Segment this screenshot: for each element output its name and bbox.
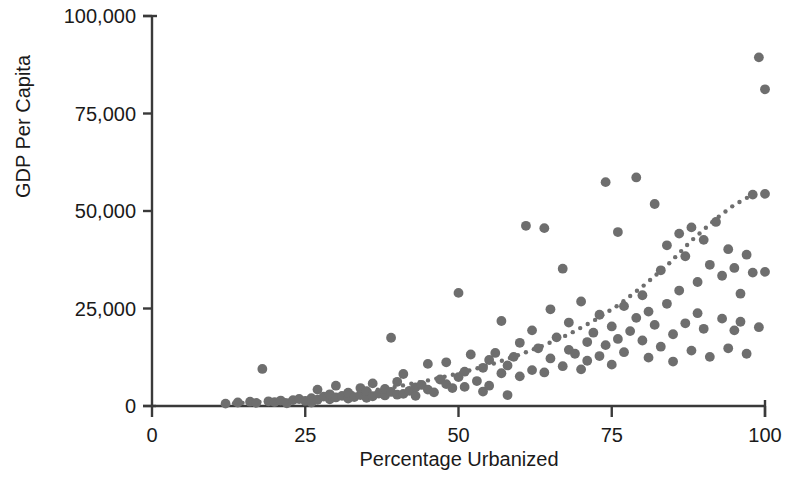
data-point [656, 342, 666, 352]
data-point [460, 367, 470, 377]
data-point [638, 290, 648, 300]
data-point [631, 313, 641, 323]
data-point [742, 250, 752, 260]
data-point [595, 310, 605, 320]
data-point [497, 368, 507, 378]
data-point [546, 304, 556, 314]
data-point [515, 338, 525, 348]
data-point [503, 390, 513, 400]
y-tick-label: 25,000 [0, 297, 136, 320]
data-point [447, 383, 457, 393]
data-point [613, 227, 623, 237]
data-point [429, 387, 439, 397]
data-point [687, 222, 697, 232]
data-point [570, 349, 580, 359]
data-point [705, 352, 715, 362]
x-tick-label: 0 [146, 424, 157, 447]
data-point [699, 324, 709, 334]
data-point [687, 346, 697, 356]
data-point [576, 364, 586, 374]
x-tick-label: 75 [601, 424, 623, 447]
data-point [595, 351, 605, 361]
data-point [582, 356, 592, 366]
data-point [717, 271, 727, 281]
data-point [668, 357, 678, 367]
data-point [454, 288, 464, 298]
data-point [644, 353, 654, 363]
data-point [521, 221, 531, 231]
data-point [233, 398, 243, 408]
data-point [742, 349, 752, 359]
data-point [674, 229, 684, 239]
scatter-chart: 025,00050,00075,000100,000 0255075100 Pe… [0, 0, 786, 484]
y-axis-title: GDP Per Capita [12, 7, 35, 247]
data-point [509, 352, 519, 362]
data-point [729, 263, 739, 273]
x-tick-label: 25 [294, 424, 316, 447]
data-point [723, 343, 733, 353]
data-point [515, 371, 525, 381]
data-point [631, 173, 641, 183]
data-point [601, 177, 611, 187]
x-tick-label: 50 [447, 424, 469, 447]
data-point [619, 347, 629, 357]
data-point [619, 301, 629, 311]
data-point [650, 320, 660, 330]
data-point [503, 361, 513, 371]
data-point [760, 84, 770, 94]
data-point [478, 363, 488, 373]
data-point [251, 398, 261, 408]
data-point [760, 267, 770, 277]
data-point [533, 343, 543, 353]
data-point [717, 314, 727, 324]
data-point [582, 337, 592, 347]
data-point [736, 289, 746, 299]
data-point [423, 359, 433, 369]
data-point [668, 329, 678, 339]
data-points [221, 52, 770, 408]
data-point [748, 268, 758, 278]
data-point [539, 368, 549, 378]
data-point [656, 265, 666, 275]
data-point [638, 336, 648, 346]
data-point [564, 318, 574, 328]
data-point [723, 244, 733, 254]
data-point [386, 333, 396, 343]
data-point [693, 308, 703, 318]
data-point [368, 378, 378, 388]
data-point [729, 325, 739, 335]
data-point [699, 235, 709, 245]
data-point [460, 382, 470, 392]
data-point [558, 361, 568, 371]
data-point [644, 307, 654, 317]
data-point [650, 199, 660, 209]
data-point [711, 217, 721, 227]
data-point [674, 286, 684, 296]
data-point [754, 322, 764, 332]
data-point [484, 381, 494, 391]
data-point [558, 264, 568, 274]
data-point [754, 52, 764, 62]
data-point [441, 357, 451, 367]
data-point [552, 332, 562, 342]
data-point [331, 381, 341, 391]
data-point [760, 189, 770, 199]
data-point [588, 328, 598, 338]
data-point [539, 223, 549, 233]
data-point [398, 369, 408, 379]
data-point [497, 316, 507, 326]
data-point [705, 260, 715, 270]
data-point [680, 251, 690, 261]
data-point [546, 354, 556, 364]
data-point [527, 365, 537, 375]
data-point [736, 317, 746, 327]
data-point [576, 297, 586, 307]
data-point [662, 240, 672, 250]
x-axis-title: Percentage Urbanized [152, 448, 766, 471]
data-point [607, 322, 617, 332]
data-point [693, 277, 703, 287]
data-point [601, 340, 611, 350]
data-point [221, 399, 231, 409]
data-point [527, 325, 537, 335]
y-tick-label: 0 [0, 395, 136, 418]
